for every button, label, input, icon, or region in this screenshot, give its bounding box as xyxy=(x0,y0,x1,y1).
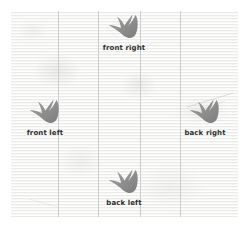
footprint-icon xyxy=(105,168,143,198)
footprint-label-front-left: front left xyxy=(14,129,76,138)
footprint-icon xyxy=(26,98,64,128)
footprint-marker-front-left: front left xyxy=(14,98,76,138)
figure-canvas: front right front left xyxy=(0,0,243,232)
footprint-marker-back-right: back right xyxy=(174,98,236,138)
footprint-label-front-right: front right xyxy=(93,44,155,53)
footprint-icon xyxy=(186,98,224,128)
footprint-label-back-left: back left xyxy=(93,199,155,208)
footprint-marker-front-right: front right xyxy=(93,13,155,53)
footprint-marker-back-left: back left xyxy=(93,168,155,208)
footprint-label-back-right: back right xyxy=(174,129,236,138)
footprint-icon xyxy=(105,13,143,43)
scanned-sheet: front right front left xyxy=(11,11,238,217)
